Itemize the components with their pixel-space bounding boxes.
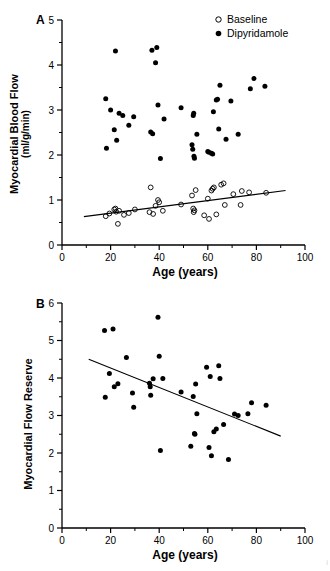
data-point: [217, 376, 222, 381]
panel-b-plot-area: 0123456020406080100: [0, 290, 330, 571]
data-point: [190, 193, 195, 198]
panel-a-plot-area: 012345020406080100: [0, 0, 330, 290]
data-point: [130, 391, 135, 396]
data-point: [148, 384, 153, 389]
data-point: [217, 83, 222, 88]
data-point: [214, 427, 219, 432]
data-point: [103, 96, 108, 101]
data-point: [155, 103, 160, 108]
y-tick-label: 5: [48, 15, 54, 26]
data-point: [264, 403, 269, 408]
filled-circle-icon: [212, 29, 224, 38]
y-tick-label: 0: [48, 523, 54, 534]
data-point: [190, 147, 195, 152]
data-point: [191, 394, 196, 399]
data-point: [148, 185, 153, 190]
data-point: [153, 60, 158, 65]
data-point: [231, 192, 236, 197]
y-tick-label: 2: [48, 150, 54, 161]
data-point: [208, 374, 213, 379]
data-point: [126, 123, 131, 128]
data-point: [148, 393, 153, 398]
data-point: [115, 221, 120, 226]
data-point: [108, 108, 113, 113]
data-point: [247, 190, 252, 195]
data-point: [122, 212, 127, 217]
data-point: [245, 411, 250, 416]
data-point: [236, 413, 241, 418]
data-point: [131, 405, 136, 410]
data-point: [111, 326, 116, 331]
legend: Baseline Dipyridamole: [212, 12, 288, 40]
data-point: [115, 381, 120, 386]
data-point: [154, 45, 159, 50]
x-tick-label: 20: [105, 252, 117, 263]
data-point: [114, 138, 119, 143]
y-tick-label: 4: [48, 60, 54, 71]
x-tick-label: 0: [59, 535, 65, 546]
panel-a: A Myocardial Blood Flow (ml/g/min) 01234…: [0, 0, 330, 290]
open-circle-icon: [212, 15, 224, 24]
y-tick-label: 3: [48, 410, 54, 421]
data-point: [239, 189, 244, 194]
y-tick-label: 1: [48, 485, 54, 496]
data-point: [207, 217, 212, 222]
panel-b: B Myocardial Flow Reserve 01234560204060…: [0, 290, 330, 571]
data-point: [179, 105, 184, 110]
data-point: [224, 137, 229, 142]
data-point: [112, 127, 117, 132]
data-point: [228, 99, 233, 104]
data-point: [202, 213, 207, 218]
data-point: [188, 444, 193, 449]
data-point: [226, 457, 231, 462]
data-point: [215, 97, 220, 102]
legend-item-baseline: Baseline: [212, 12, 288, 26]
x-tick-label: 40: [154, 252, 166, 263]
data-point: [193, 188, 198, 193]
x-tick-label: 100: [297, 535, 314, 546]
x-tick-label: 60: [202, 252, 214, 263]
data-point: [221, 422, 226, 427]
data-point: [107, 371, 112, 376]
y-tick-label: 2: [48, 448, 54, 459]
data-point: [162, 117, 167, 122]
data-point: [190, 142, 195, 147]
data-point: [222, 203, 227, 208]
data-point: [149, 48, 154, 53]
data-point: [216, 126, 221, 131]
regression-line: [89, 359, 281, 436]
data-point: [194, 132, 199, 137]
data-point: [209, 453, 214, 458]
data-point: [158, 156, 163, 161]
data-point: [249, 400, 254, 405]
data-point: [124, 355, 129, 360]
y-tick-label: 0: [48, 240, 54, 251]
x-tick-label: 0: [59, 252, 65, 263]
x-tick-label: 20: [105, 535, 117, 546]
page-footer-artifact: i: [0, 556, 330, 571]
data-point: [151, 376, 156, 381]
data-point: [236, 132, 241, 137]
data-point: [207, 445, 212, 450]
y-tick-label: 5: [48, 335, 54, 346]
data-point: [191, 111, 196, 116]
data-point: [102, 328, 107, 333]
data-point: [192, 156, 197, 161]
data-point: [204, 365, 209, 370]
legend-item-dipyridamole: Dipyridamole: [212, 26, 288, 40]
data-point: [194, 411, 199, 416]
data-point: [211, 109, 216, 114]
data-point: [251, 76, 256, 81]
data-point: [216, 363, 221, 368]
data-point: [179, 389, 184, 394]
data-point: [248, 86, 253, 91]
data-point: [113, 49, 118, 54]
y-tick-label: 4: [48, 373, 54, 384]
data-point: [103, 395, 108, 400]
data-point: [192, 432, 197, 437]
data-point: [193, 382, 198, 387]
legend-label-dipyridamole: Dipyridamole: [224, 26, 288, 40]
data-point: [158, 448, 163, 453]
data-point: [210, 152, 215, 157]
data-point: [262, 84, 267, 89]
